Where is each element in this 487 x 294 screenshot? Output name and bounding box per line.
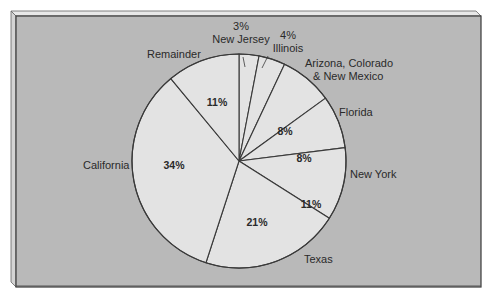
- pct-label-new-jersey: 3%: [233, 20, 249, 32]
- category-label-remainder: Remainder: [147, 48, 201, 60]
- category-label-illinois: Illinois: [273, 42, 304, 54]
- category-label-arizona-line2: & New Mexico: [313, 70, 383, 82]
- pie-chart: 8% 8% 11% 21% 34% 11% 3% New Jersey 4% I…: [0, 0, 487, 294]
- pct-label-florida: 8%: [296, 152, 312, 164]
- category-label-arizona-line1: Arizona, Colorado: [305, 57, 393, 69]
- pct-label-texas: 21%: [246, 216, 268, 228]
- pct-label-arizona: 8%: [277, 125, 293, 137]
- category-label-florida: Florida: [339, 106, 374, 118]
- pct-label-illinois: 4%: [280, 29, 296, 41]
- category-label-texas: Texas: [304, 253, 333, 265]
- pct-label-california: 34%: [163, 159, 185, 171]
- category-label-new-york: New York: [350, 168, 397, 180]
- category-label-new-jersey: New Jersey: [212, 33, 270, 45]
- pct-label-new-york: 11%: [301, 198, 322, 210]
- category-label-california: California: [83, 159, 130, 171]
- pct-label-remainder: 11%: [207, 96, 228, 108]
